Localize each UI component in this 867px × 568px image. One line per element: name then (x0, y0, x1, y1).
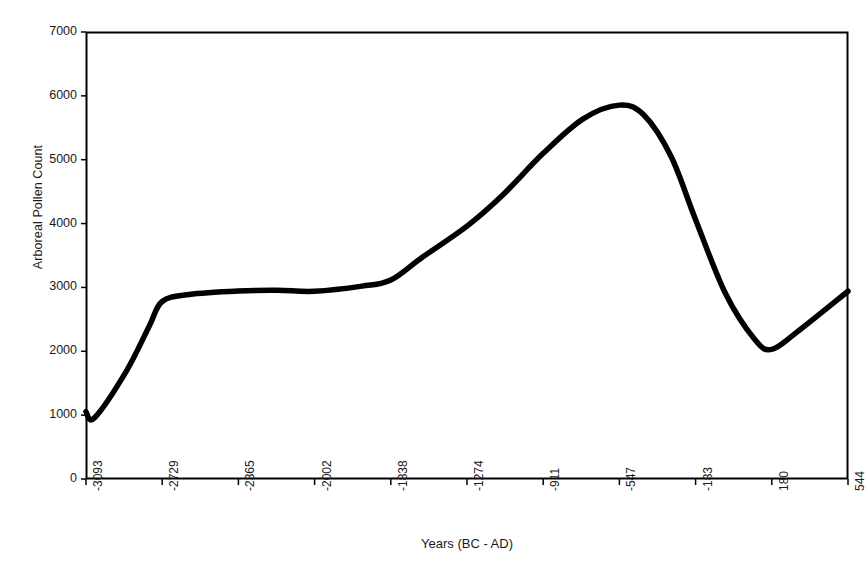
x-tick-label: -2002 (321, 460, 333, 491)
x-tick-label: -183 (702, 467, 714, 491)
x-tick-label: -1274 (473, 460, 485, 491)
y-tick-label: 4000 (29, 217, 77, 229)
y-tick-label: 1000 (29, 408, 77, 420)
x-tick-label: -911 (549, 468, 561, 491)
y-tick-label: 5000 (29, 153, 77, 165)
y-tick-label: 0 (29, 472, 77, 484)
x-tick-label: -3093 (92, 460, 104, 491)
y-tick-label: 2000 (29, 344, 77, 356)
x-tick-label: -2365 (244, 460, 256, 491)
x-tick-label: 180 (778, 471, 790, 491)
y-tick-label: 7000 (29, 25, 77, 37)
x-axis-tick-marks (86, 479, 848, 485)
plot-frame (87, 33, 848, 479)
x-tick-label: -1838 (397, 460, 409, 491)
y-tick-label: 6000 (29, 89, 77, 101)
y-tick-label: 3000 (29, 280, 77, 292)
x-tick-label: -2729 (168, 460, 180, 491)
x-tick-label: -547 (625, 467, 637, 491)
x-axis-title: Years (BC - AD) (86, 536, 848, 551)
x-tick-label: 544 (854, 471, 866, 491)
